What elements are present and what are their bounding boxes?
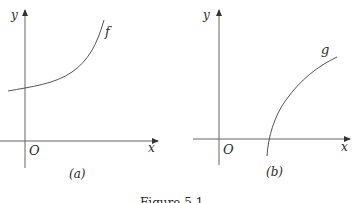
origin-label-b: O xyxy=(223,142,234,157)
y-axis-label-b: y xyxy=(202,8,210,22)
figure-canvas: y f O x (a) y g O x (b) Figure 5.1 xyxy=(0,0,352,203)
curve-f xyxy=(8,20,104,91)
panel-label-b: (b) xyxy=(266,165,283,179)
panel-label-a: (a) xyxy=(69,167,86,181)
panel-b: y g O x (b) xyxy=(193,8,350,179)
origin-label-a: O xyxy=(29,143,40,158)
x-axis-label-b: x xyxy=(341,140,348,154)
x-axis-label-a: x xyxy=(148,141,155,155)
curve-g xyxy=(267,57,337,156)
function-label-g: g xyxy=(321,42,329,57)
panel-a: y f O x (a) xyxy=(0,8,158,181)
y-axis-label-a: y xyxy=(10,8,18,22)
figure-caption: Figure 5.1 xyxy=(140,196,203,203)
function-label-f: f xyxy=(104,24,112,39)
